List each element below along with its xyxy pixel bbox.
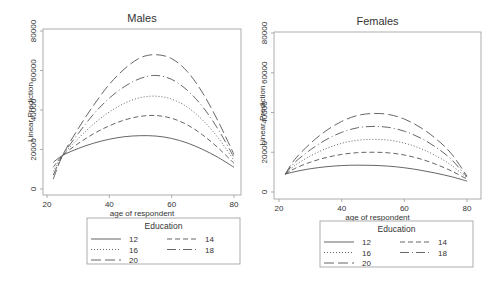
legend-label-18: 18 bbox=[438, 249, 447, 258]
legend-title: Education bbox=[145, 221, 183, 231]
series-line-educ-20 bbox=[53, 55, 234, 179]
x-tick-label: 60 bbox=[400, 204, 409, 213]
series-line-educ-14 bbox=[53, 115, 234, 167]
plot-frame bbox=[43, 29, 241, 195]
legend: Education1214161820 bbox=[87, 218, 240, 265]
chart-panel-males: Males02000040000600008000020406080age of… bbox=[26, 12, 241, 265]
legend-label-12: 12 bbox=[362, 238, 371, 247]
chart-title: Males bbox=[127, 12, 157, 24]
x-tick-label: 20 bbox=[275, 204, 284, 213]
legend-label-14: 14 bbox=[438, 238, 447, 247]
legend-label-18: 18 bbox=[205, 246, 214, 255]
y-tick-label: 60000 bbox=[260, 61, 269, 84]
plot-frame bbox=[274, 32, 481, 199]
series-line-educ-16 bbox=[53, 96, 234, 171]
x-tick-label: 80 bbox=[463, 204, 472, 213]
chart-panel-females: Females02000040000600008000020406080age … bbox=[258, 15, 481, 268]
series-line-educ-16 bbox=[285, 139, 467, 178]
series-line-educ-18 bbox=[285, 126, 467, 177]
legend-title: Education bbox=[378, 224, 416, 234]
legend-label-20: 20 bbox=[129, 256, 138, 265]
y-tick-label: 80000 bbox=[260, 21, 269, 44]
legend-label-16: 16 bbox=[362, 249, 371, 258]
x-tick-label: 60 bbox=[167, 200, 176, 209]
x-tick-label: 80 bbox=[230, 200, 239, 209]
chart-title: Females bbox=[356, 15, 399, 27]
legend-label-12: 12 bbox=[129, 235, 138, 244]
y-tick-label: 80000 bbox=[29, 19, 38, 42]
x-tick-label: 40 bbox=[337, 204, 346, 213]
y-tick-label: 0 bbox=[29, 186, 38, 191]
x-axis-label: age of respondent bbox=[110, 209, 175, 218]
chart-canvas: Males02000040000600008000020406080age of… bbox=[0, 0, 497, 284]
legend-label-20: 20 bbox=[362, 259, 371, 268]
legend-label-16: 16 bbox=[129, 246, 138, 255]
x-tick-label: 20 bbox=[43, 200, 52, 209]
legend-label-14: 14 bbox=[205, 235, 214, 244]
series-line-educ-12 bbox=[285, 165, 467, 181]
series-line-educ-12 bbox=[53, 136, 234, 168]
y-axis-label: Linear Prediction bbox=[26, 82, 35, 142]
x-tick-label: 40 bbox=[105, 200, 114, 209]
y-tick-label: 0 bbox=[260, 189, 269, 194]
series-line-educ-20 bbox=[285, 113, 467, 176]
y-axis-label: Linear Prediction bbox=[258, 85, 267, 145]
legend: Education1214161820 bbox=[320, 221, 473, 268]
y-tick-label: 60000 bbox=[29, 59, 38, 82]
